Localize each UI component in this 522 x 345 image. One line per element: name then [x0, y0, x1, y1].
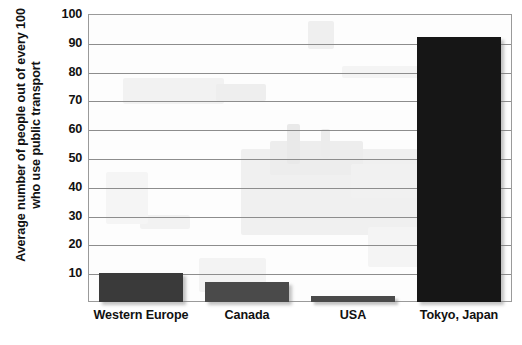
x-axis-tick-label: Western Europe: [88, 308, 194, 322]
y-axis-tick-label: 90: [68, 36, 82, 50]
y-axis-tick-labels: 102030405060708090100: [52, 14, 82, 302]
y-axis-tick-label: 30: [68, 209, 82, 223]
y-axis-title: Average number of people out of every 10…: [9, 0, 49, 280]
bars-layer: [88, 14, 512, 302]
x-axis-tick-label: Canada: [194, 308, 300, 322]
y-axis-tick-label: 50: [68, 151, 82, 165]
bar: [99, 273, 183, 302]
y-axis-title-line-1: Average number of people out of every 10…: [14, 8, 29, 262]
x-axis-tick-label: USA: [300, 308, 406, 322]
bar-chart: Average number of people out of every 10…: [0, 0, 522, 345]
x-axis-tick-label: Tokyo, Japan: [406, 308, 512, 322]
y-axis-tick-label: 40: [68, 180, 82, 194]
y-axis-title-line-2: who use public transport: [29, 61, 44, 208]
y-axis-tick-label: 10: [68, 266, 82, 280]
bar: [205, 282, 289, 302]
y-axis-tick-label: 100: [62, 7, 82, 21]
y-axis-tick-label: 70: [68, 93, 82, 107]
x-axis-tick-labels: Western EuropeCanadaUSATokyo, Japan: [88, 308, 512, 330]
y-axis-tick-label: 20: [68, 237, 82, 251]
y-axis-tick-label: 60: [68, 122, 82, 136]
bar: [417, 37, 501, 302]
y-axis-tick-label: 80: [68, 65, 82, 79]
bar: [311, 296, 395, 302]
